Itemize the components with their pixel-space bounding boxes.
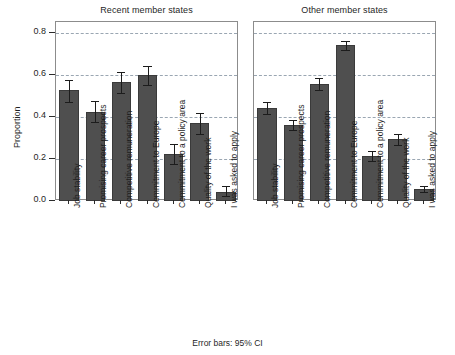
x-axis-tick (199, 200, 200, 204)
y-axis-tick-label: 0.8 (14, 26, 46, 36)
y-axis-tick-label: 0.2 (14, 152, 46, 162)
error-bar (226, 186, 227, 195)
x-axis-label: Promising career prospects (296, 105, 306, 208)
error-bar-cap-lower (341, 50, 349, 51)
x-axis-label: Commitment to a policy area (375, 100, 385, 208)
x-axis-tick (292, 200, 293, 204)
x-axis-tick (397, 200, 398, 204)
error-bar-cap-lower (65, 102, 73, 103)
error-bar-cap-upper (394, 134, 402, 135)
error-bar (121, 72, 122, 92)
x-axis-tick (94, 200, 95, 204)
error-bar-cap-lower (263, 114, 271, 115)
x-axis-label: I was asked to apply (427, 131, 437, 208)
x-axis-label: I was asked to apply (229, 131, 239, 208)
x-axis-label: Commitment to a policy area (177, 100, 187, 208)
x-axis-tick (147, 200, 148, 204)
error-bar (95, 101, 96, 122)
error-bar-cap-lower (196, 134, 204, 135)
error-bar-note: Error bars: 95% CI (0, 338, 455, 348)
y-axis-tick-label: 0.0 (14, 194, 46, 204)
x-axis-tick (173, 200, 174, 204)
error-bar (174, 144, 175, 164)
x-axis-label: Quality of the work (203, 138, 213, 208)
gridline (56, 33, 237, 34)
error-bar-cap-lower (315, 90, 323, 91)
bar-chart-figure: 0.00.20.40.60.8ProportionRecent member s… (0, 0, 455, 355)
error-bar (319, 78, 320, 90)
error-bar-cap-upper (341, 41, 349, 42)
error-bar-cap-upper (143, 66, 151, 67)
error-bar-cap-lower (117, 93, 125, 94)
x-axis-label: Quality of the work (401, 138, 411, 208)
error-bar (293, 120, 294, 130)
error-bar (346, 41, 347, 51)
x-axis-label: Commitment to Europe (349, 121, 359, 208)
error-bar (267, 102, 268, 114)
x-axis-tick (423, 200, 424, 204)
x-axis-label: Job stability (270, 164, 280, 208)
error-bar (69, 80, 70, 102)
y-axis-tick-mark (49, 200, 55, 201)
x-axis-label: Competitive remuneration (322, 111, 332, 208)
x-axis-label: Promising career prospects (98, 105, 108, 208)
x-axis-label: Competitive remuneration (124, 111, 134, 208)
x-axis-tick (318, 200, 319, 204)
error-bar (148, 66, 149, 84)
x-axis-tick (120, 200, 121, 204)
x-axis-label: Commitment to Europe (151, 121, 161, 208)
panel-title-1: Other member states (253, 5, 436, 15)
x-axis-tick (68, 200, 69, 204)
panel-title-0: Recent member states (55, 5, 238, 15)
error-bar-cap-upper (196, 113, 204, 114)
y-axis-title: Proportion (12, 106, 22, 148)
gridline (254, 33, 435, 34)
error-bar-cap-lower (143, 85, 151, 86)
error-bar (372, 151, 373, 160)
error-bar-cap-upper (91, 101, 99, 102)
y-axis-tick-label: 0.6 (14, 68, 46, 78)
error-bar-cap-upper (263, 102, 271, 103)
x-axis-tick (225, 200, 226, 204)
error-bar-cap-upper (117, 72, 125, 73)
x-axis-tick (266, 200, 267, 204)
x-axis-tick (371, 200, 372, 204)
x-axis-tick (345, 200, 346, 204)
x-axis-label: Job stability (72, 164, 82, 208)
error-bar-cap-upper (65, 80, 73, 81)
error-bar-cap-upper (315, 78, 323, 79)
error-bar (398, 134, 399, 144)
error-bar (200, 113, 201, 134)
